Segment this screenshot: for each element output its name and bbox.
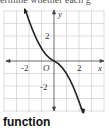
cubic-function-graph: y x O -2 2 2 -2 — [0, 0, 109, 118]
x-axis-label: x — [97, 63, 102, 73]
x-tick-neg2: -2 — [21, 63, 29, 73]
x-tick-2: 2 — [77, 63, 82, 73]
function-label: function — [3, 115, 50, 129]
y-axis-label: y — [57, 9, 62, 19]
y-tick-neg2: -2 — [40, 82, 48, 92]
y-tick-2: 2 — [45, 31, 50, 41]
axes — [6, 10, 104, 111]
origin-label: O — [43, 63, 50, 73]
